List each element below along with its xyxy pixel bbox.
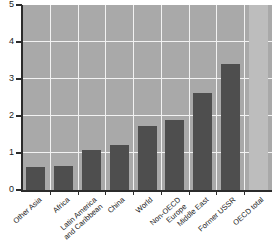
gridline-vertical xyxy=(133,5,134,190)
x-tick-mark xyxy=(133,191,134,195)
plot-area xyxy=(22,5,272,190)
x-tick-mark xyxy=(161,191,162,195)
gridline-vertical xyxy=(50,5,51,190)
y-tick-label: 1 xyxy=(2,148,14,157)
gridline-vertical xyxy=(216,5,217,190)
y-tick-label: 4 xyxy=(2,37,14,46)
y-tick-label: 5 xyxy=(2,0,14,9)
bar-chart: 012345 Other AsiaAfricaLatin America and… xyxy=(0,0,277,249)
gridline-horizontal xyxy=(22,41,272,42)
bar-non-oecd-europe xyxy=(165,120,184,190)
x-axis-line xyxy=(21,190,272,192)
y-tick-label: 2 xyxy=(2,111,14,120)
bar-africa xyxy=(54,166,73,190)
y-tick-mark xyxy=(16,189,22,191)
bar-other-asia xyxy=(26,167,45,190)
bar-world xyxy=(138,126,157,190)
gridline-vertical xyxy=(105,5,106,190)
gridline-vertical xyxy=(244,5,245,190)
bar-china xyxy=(110,145,129,190)
gridline-vertical xyxy=(161,5,162,190)
x-tick-mark xyxy=(244,191,245,195)
y-tick-mark xyxy=(16,78,22,80)
y-axis-line xyxy=(21,5,23,191)
y-tick-mark xyxy=(16,41,22,43)
bar-latin-america-and-caribbean xyxy=(82,150,101,190)
gridline-vertical xyxy=(78,5,79,190)
x-tick-mark xyxy=(50,191,51,195)
y-tick-mark xyxy=(16,4,22,6)
x-tick-mark xyxy=(216,191,217,195)
gridline-vertical xyxy=(189,5,190,190)
bar-middle-east xyxy=(193,93,212,190)
y-tick-label: 0 xyxy=(2,185,14,194)
x-tick-mark xyxy=(189,191,190,195)
bar-oecd-total xyxy=(249,5,268,190)
bar-former-ussr xyxy=(221,64,240,190)
y-tick-mark xyxy=(16,152,22,154)
x-tick-mark xyxy=(78,191,79,195)
y-tick-label: 3 xyxy=(2,74,14,83)
y-tick-mark xyxy=(16,115,22,117)
x-tick-mark xyxy=(105,191,106,195)
